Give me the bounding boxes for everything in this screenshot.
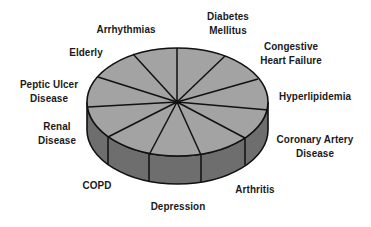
label-line: Disease — [34, 133, 80, 147]
pie-center — [175, 100, 179, 104]
label-line: Renal — [34, 119, 80, 133]
label-renal-disease: Renal Disease — [34, 119, 80, 147]
label-line: Elderly — [66, 45, 106, 59]
label-congestive-heart-failure: Congestive Heart Failure — [257, 39, 326, 67]
label-line: Disease — [17, 91, 81, 105]
label-line: Depression — [148, 199, 208, 213]
label-line: Congestive — [257, 39, 326, 53]
label-hyperlipidemia: Hyperlipidemia — [278, 89, 352, 103]
label-coronary-artery-disease: Coronary Artery Disease — [276, 132, 353, 160]
label-elderly: Elderly — [66, 45, 106, 59]
label-arthritis: Arthritis — [232, 182, 278, 196]
label-arrhythmias: Arrhythmias — [95, 22, 157, 36]
comorbidity-pie-diagram: Arrhythmias Diabetes Mellitus Congestive… — [0, 0, 371, 227]
label-line: Disease — [276, 146, 353, 160]
label-copd: COPD — [79, 178, 115, 192]
pie-graphic — [0, 0, 371, 227]
label-line: Diabetes — [201, 9, 254, 23]
label-diabetes-mellitus: Diabetes Mellitus — [201, 9, 254, 37]
label-line: Hyperlipidemia — [278, 89, 352, 103]
label-line: Peptic Ulcer — [17, 77, 81, 91]
label-line: Arrhythmias — [95, 22, 157, 36]
label-line: Arthritis — [232, 182, 278, 196]
label-depression: Depression — [148, 199, 208, 213]
label-line: COPD — [79, 178, 115, 192]
label-line: Mellitus — [201, 23, 254, 37]
label-peptic-ulcer-disease: Peptic Ulcer Disease — [17, 77, 81, 105]
label-line: Coronary Artery — [276, 132, 353, 146]
label-line: Heart Failure — [257, 53, 326, 67]
